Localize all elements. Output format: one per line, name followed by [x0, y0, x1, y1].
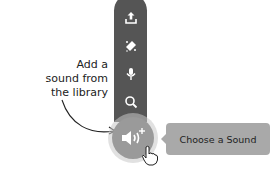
record-button[interactable]	[114, 62, 147, 86]
upload-icon	[124, 11, 138, 25]
search-icon	[124, 95, 138, 109]
sound-menu-column	[114, 0, 147, 122]
surprise-icon	[124, 39, 138, 53]
upload-sound-button[interactable]	[114, 6, 147, 30]
choose-sound-tooltip: Choose a Sound	[166, 123, 270, 155]
hand-cursor-icon	[141, 145, 159, 167]
tooltip-text: Choose a Sound	[180, 134, 257, 145]
surprise-button[interactable]	[114, 34, 147, 58]
microphone-icon	[124, 67, 138, 81]
choose-sound-search-button[interactable]	[114, 90, 147, 114]
